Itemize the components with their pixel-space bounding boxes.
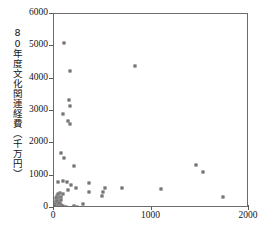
data-point <box>69 105 72 108</box>
data-point <box>59 152 62 155</box>
x-tick-label: 2000 <box>225 211 261 221</box>
data-point <box>202 170 205 173</box>
data-point <box>75 186 78 189</box>
data-point <box>121 186 124 189</box>
data-point <box>59 206 62 207</box>
data-point <box>63 42 66 45</box>
data-point <box>61 113 64 116</box>
data-point <box>65 181 68 184</box>
scatter-plot-figure: 80年度文化関連経費（千万円） 010002000300040005000600… <box>0 0 261 237</box>
x-tick-label: 0 <box>30 211 76 221</box>
data-point <box>56 181 59 184</box>
data-point <box>69 69 72 72</box>
data-point <box>194 163 197 166</box>
x-tick-label: 1000 <box>128 211 174 221</box>
y-tick-label: 5000 <box>4 40 48 50</box>
y-tick-label: 1000 <box>4 170 48 180</box>
data-point <box>133 64 136 67</box>
data-point <box>70 184 73 187</box>
data-point <box>72 205 75 207</box>
data-point <box>76 206 79 207</box>
data-point <box>82 203 85 206</box>
data-point <box>73 164 76 167</box>
data-point <box>160 187 163 190</box>
data-point <box>61 179 64 182</box>
data-point <box>100 195 103 198</box>
data-point <box>101 190 104 193</box>
plot-area <box>53 13 248 207</box>
data-point <box>88 181 91 184</box>
data-point <box>69 122 72 125</box>
data-point <box>88 191 91 194</box>
y-tick-label: 3000 <box>4 105 48 115</box>
data-point <box>103 187 106 190</box>
data-point <box>56 193 59 196</box>
y-tick-label: 4000 <box>4 73 48 83</box>
data-point <box>221 196 224 199</box>
data-point <box>57 202 60 205</box>
data-point <box>62 156 65 159</box>
data-point <box>64 206 67 207</box>
y-tick-label: 6000 <box>4 8 48 18</box>
data-point <box>66 188 69 191</box>
y-tick-label: 2000 <box>4 137 48 147</box>
data-point <box>68 98 71 101</box>
